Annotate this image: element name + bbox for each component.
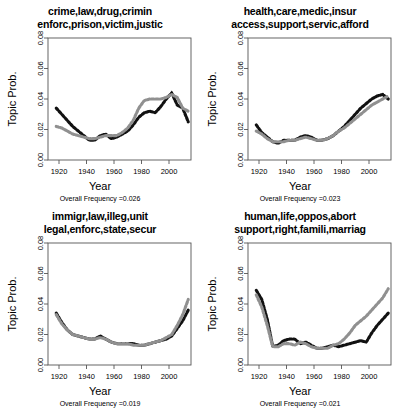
x-axis-label: Year xyxy=(89,385,112,397)
x-tick-label: 2000 xyxy=(161,372,178,381)
x-tick-label: 1980 xyxy=(333,167,350,176)
y-tick-label: 0.04 xyxy=(236,297,245,312)
x-tick-label: 1960 xyxy=(106,167,123,176)
panel-panel-immigration: immigr,law,illeg,unitlegal,enforc,state,… xyxy=(0,205,200,411)
panel-title-line1: crime,law,drug,crimin xyxy=(48,5,152,17)
x-tick-label: 1980 xyxy=(333,372,350,381)
panel-panel-health: health,care,medic,insuraccess,support,se… xyxy=(200,0,401,205)
x-tick-label: 1920 xyxy=(251,372,268,381)
series-line xyxy=(56,95,188,139)
chart-panel-crime: crime,law,drug,criminenforc,prison,victi… xyxy=(0,0,200,205)
overall-frequency-caption: Overall Frequency =0.021 xyxy=(260,400,341,408)
panel-panel-crime: crime,law,drug,criminenforc,prison,victi… xyxy=(0,0,200,205)
series-black xyxy=(256,94,388,143)
overall-frequency-caption: Overall Frequency =0.019 xyxy=(60,400,141,408)
chart-panel-immigration: immigr,law,illeg,unitlegal,enforc,state,… xyxy=(0,205,200,410)
x-tick-label: 1940 xyxy=(278,372,295,381)
x-tick-label: 1920 xyxy=(51,372,68,381)
y-tick-label: 0.06 xyxy=(236,61,245,76)
x-tick-label: 1920 xyxy=(251,167,268,176)
y-tick-label: 0.00 xyxy=(236,358,245,373)
plot-frame xyxy=(48,243,191,365)
x-tick-label: 2000 xyxy=(161,167,178,176)
overall-frequency-caption: Overall Frequency =0.026 xyxy=(60,195,141,203)
x-axis-label: Year xyxy=(289,385,312,397)
x-tick-label: 1980 xyxy=(133,167,150,176)
panel-title-line1: immigr,law,illeg,unit xyxy=(52,210,148,222)
y-tick-label: 0.02 xyxy=(36,122,45,137)
x-tick-label: 1980 xyxy=(133,372,150,381)
series-black xyxy=(256,290,388,348)
x-axis-label: Year xyxy=(289,180,312,192)
y-tick-label: 0.08 xyxy=(36,236,45,251)
series-line xyxy=(56,310,188,345)
y-axis-label: Topic Prob. xyxy=(6,71,18,126)
panel-title-line1: health,care,medic,insur xyxy=(244,5,357,17)
figure-grid: crime,law,drug,criminenforc,prison,victi… xyxy=(0,0,401,411)
x-tick-label: 2000 xyxy=(361,167,378,176)
y-tick-label: 0.06 xyxy=(36,61,45,76)
overall-frequency-caption: Overall Frequency =0.023 xyxy=(260,195,341,203)
chart-panel-human-life: human,life,oppos,abortsupport,right,fami… xyxy=(200,205,400,410)
y-tick-label: 0.00 xyxy=(36,358,45,373)
y-tick-label: 0.08 xyxy=(236,236,245,251)
y-axis-label: Topic Prob. xyxy=(6,276,18,331)
series-gray xyxy=(56,95,188,139)
x-axis-label: Year xyxy=(89,180,112,192)
series-black xyxy=(56,310,188,345)
y-tick-label: 0.00 xyxy=(236,153,245,168)
y-tick-label: 0.06 xyxy=(236,266,245,281)
series-line xyxy=(256,94,388,143)
y-tick-label: 0.06 xyxy=(36,266,45,281)
x-tick-label: 1960 xyxy=(106,372,123,381)
y-tick-label: 0.04 xyxy=(236,92,245,107)
y-axis-label: Topic Prob. xyxy=(206,71,218,126)
y-tick-label: 0.04 xyxy=(36,297,45,312)
panel-title-line2: enforc,prison,victim,justic xyxy=(37,18,163,30)
x-tick-label: 1960 xyxy=(306,167,323,176)
panel-panel-human-life: human,life,oppos,abortsupport,right,fami… xyxy=(200,205,401,411)
x-tick-label: 1940 xyxy=(78,167,95,176)
y-tick-label: 0.08 xyxy=(36,31,45,46)
y-tick-label: 0.02 xyxy=(36,327,45,342)
y-tick-label: 0.02 xyxy=(236,122,245,137)
x-tick-label: 1960 xyxy=(306,372,323,381)
y-tick-label: 0.04 xyxy=(36,92,45,107)
x-tick-label: 1920 xyxy=(51,167,68,176)
y-axis-label: Topic Prob. xyxy=(206,276,218,331)
x-tick-label: 1940 xyxy=(278,167,295,176)
x-tick-label: 1940 xyxy=(78,372,95,381)
chart-panel-health: health,care,medic,insuraccess,support,se… xyxy=(200,0,400,205)
series-line xyxy=(256,290,388,348)
panel-title-line2: support,right,famili,marriag xyxy=(234,223,366,235)
panel-title-line1: human,life,oppos,abort xyxy=(244,210,356,222)
y-tick-label: 0.08 xyxy=(236,31,245,46)
y-tick-label: 0.02 xyxy=(236,327,245,342)
panel-title-line2: access,support,servic,afford xyxy=(231,18,368,30)
x-tick-label: 2000 xyxy=(361,372,378,381)
y-tick-label: 0.00 xyxy=(36,153,45,168)
panel-title-line2: legal,enforc,state,secur xyxy=(44,223,157,235)
plot-frame xyxy=(48,38,191,160)
